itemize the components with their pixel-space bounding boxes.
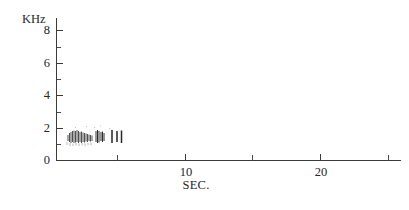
y-tick-label-2: 2 bbox=[28, 122, 50, 135]
y-tick-label-0: 0 bbox=[28, 154, 50, 167]
y-tick-label-4: 4 bbox=[28, 89, 50, 102]
x-tick-label-20: 20 bbox=[306, 166, 336, 179]
spectrogram-trace-band bbox=[68, 130, 92, 143]
spectrogram-figure: KHz 8 6 4 2 0 10 20 SEC. bbox=[0, 0, 409, 210]
spectrogram-pulse-group bbox=[112, 130, 122, 143]
x-axis-title: SEC. bbox=[166, 179, 226, 192]
y-tick-label-8: 8 bbox=[28, 24, 50, 37]
x-tick-label-10: 10 bbox=[171, 166, 201, 179]
spectrogram-speckle bbox=[75, 126, 110, 130]
x-ticks bbox=[118, 154, 389, 161]
y-major-ticks bbox=[57, 31, 64, 161]
spectrogram-trace-segment-2 bbox=[96, 130, 104, 143]
y-tick-label-6: 6 bbox=[28, 57, 50, 70]
